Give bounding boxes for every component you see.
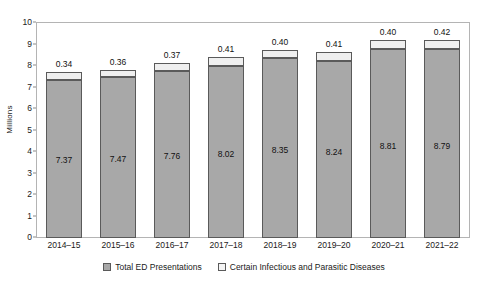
bar-group[interactable]: 8.240.41 xyxy=(316,23,352,238)
x-axis-tick-label: 2017–18 xyxy=(199,240,253,250)
bar-value-label-total-ed: 8.02 xyxy=(208,149,244,159)
x-axis-tick-label: 2021–22 xyxy=(415,240,469,250)
bar-segment-infectious[interactable] xyxy=(154,63,190,71)
bar-segment-infectious[interactable] xyxy=(316,52,352,61)
y-axis-tick-label: 7 xyxy=(27,82,32,92)
x-axis-labels: 2014–152015–162016–172017–182018–192019–… xyxy=(37,240,469,254)
bar-value-label-total-ed: 7.37 xyxy=(46,155,82,165)
chart-legend: Total ED PresentationsCertain Infectious… xyxy=(0,259,488,275)
y-axis-tick-label: 3 xyxy=(27,168,32,178)
bar-segment-infectious[interactable] xyxy=(370,40,406,49)
bar-segment-infectious[interactable] xyxy=(46,72,82,79)
bar-value-label-total-ed: 7.47 xyxy=(100,154,136,164)
y-axis-tick-label: 1 xyxy=(27,211,32,221)
legend-item[interactable]: Certain Infectious and Parasitic Disease… xyxy=(218,262,385,272)
bar-value-label-total-ed: 8.79 xyxy=(424,141,460,151)
legend-item[interactable]: Total ED Presentations xyxy=(103,262,201,272)
y-axis-tick-label: 10 xyxy=(23,17,32,27)
y-axis-tick-label: 5 xyxy=(27,125,32,135)
bar-value-label-infectious: 0.41 xyxy=(310,39,358,49)
bar-value-label-total-ed: 8.24 xyxy=(316,147,352,157)
bar-value-label-infectious: 0.40 xyxy=(256,37,304,47)
bar-value-label-infectious: 0.40 xyxy=(364,27,412,37)
bar-group[interactable]: 8.790.42 xyxy=(424,23,460,238)
bar-segment-infectious[interactable] xyxy=(100,70,136,78)
y-axis-tick-label: 8 xyxy=(27,60,32,70)
x-axis-tick-label: 2020–21 xyxy=(361,240,415,250)
y-axis-tick-label: 6 xyxy=(27,103,32,113)
bar-value-label-total-ed: 8.35 xyxy=(262,145,298,155)
bar-group[interactable]: 7.370.34 xyxy=(46,23,82,238)
x-axis-tick-label: 2018–19 xyxy=(253,240,307,250)
y-axis-tick-label: 4 xyxy=(27,146,32,156)
bar-segment-infectious[interactable] xyxy=(424,40,460,49)
legend-swatch-icon xyxy=(218,263,226,271)
bar-value-label-infectious: 0.36 xyxy=(94,57,142,67)
bar-segment-infectious[interactable] xyxy=(262,50,298,59)
y-axis-ticks: 109876543210 xyxy=(14,22,36,238)
bar-segment-infectious[interactable] xyxy=(208,57,244,66)
bar-value-label-total-ed: 7.76 xyxy=(154,151,190,161)
stacked-bar-chart: Millions 109876543210 7.370.347.470.367.… xyxy=(0,0,488,288)
x-axis-tick-label: 2015–16 xyxy=(91,240,145,250)
legend-swatch-icon xyxy=(103,263,111,271)
bars-layer: 7.370.347.470.367.760.378.020.418.350.40… xyxy=(37,23,469,238)
bar-value-label-infectious: 0.41 xyxy=(202,44,250,54)
y-axis-tick-label: 9 xyxy=(27,39,32,49)
bar-group[interactable]: 8.810.40 xyxy=(370,23,406,238)
bar-value-label-infectious: 0.42 xyxy=(418,27,466,37)
x-axis-tick-label: 2014–15 xyxy=(37,240,91,250)
bar-value-label-infectious: 0.37 xyxy=(148,50,196,60)
bar-group[interactable]: 7.760.37 xyxy=(154,23,190,238)
bar-value-label-total-ed: 8.81 xyxy=(370,141,406,151)
x-axis-tick-label: 2019–20 xyxy=(307,240,361,250)
bar-group[interactable]: 8.020.41 xyxy=(208,23,244,238)
legend-label: Certain Infectious and Parasitic Disease… xyxy=(230,262,385,272)
y-axis-tick-label: 2 xyxy=(27,189,32,199)
legend-label: Total ED Presentations xyxy=(115,262,201,272)
y-axis-title-label: Millions xyxy=(5,105,14,133)
x-axis-tick-label: 2016–17 xyxy=(145,240,199,250)
bar-group[interactable]: 8.350.40 xyxy=(262,23,298,238)
y-axis-tick-label: 0 xyxy=(27,232,32,242)
bar-value-label-infectious: 0.34 xyxy=(40,59,88,69)
bar-group[interactable]: 7.470.36 xyxy=(100,23,136,238)
